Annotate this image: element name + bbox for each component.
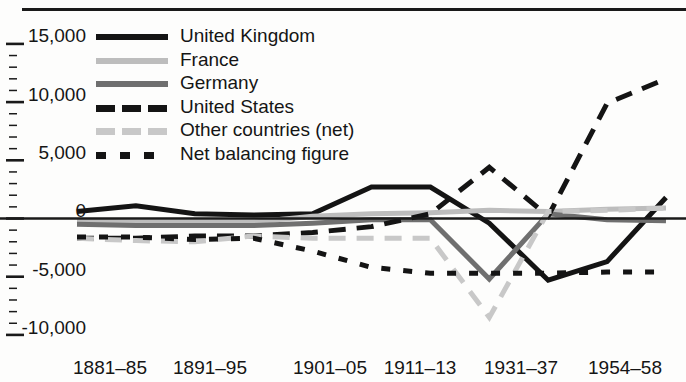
series-layer (77, 79, 666, 318)
series-line-united-kingdom (77, 187, 666, 280)
plot-area (0, 0, 686, 382)
y-axis-ticks (6, 44, 24, 335)
chart-container: 15,000 10,000 5,000 0 -5,000 -10,000 188… (0, 0, 686, 382)
